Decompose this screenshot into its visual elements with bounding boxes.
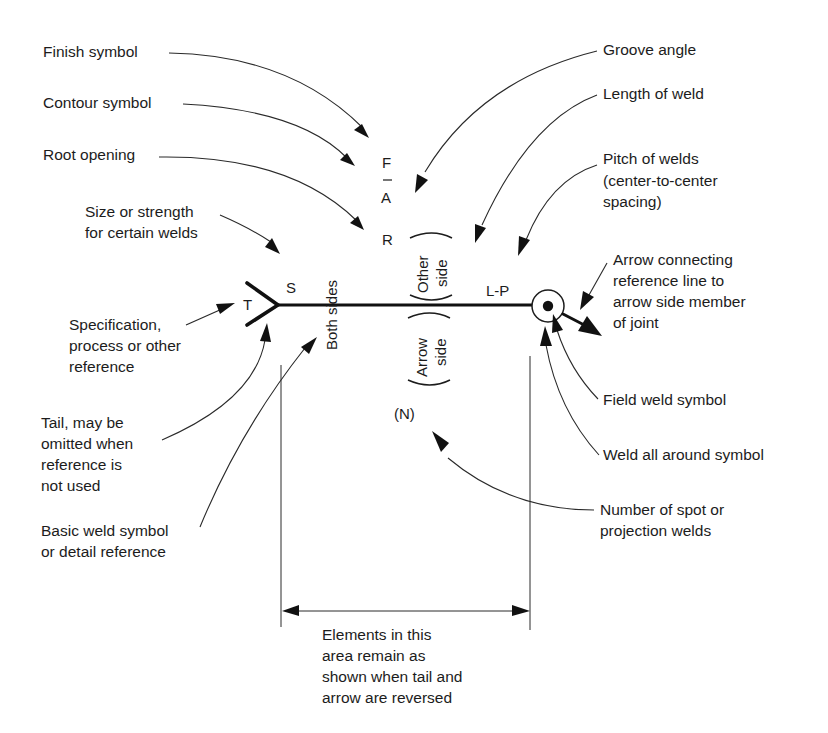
- arrowhead-specification: [216, 303, 235, 314]
- svg-text:spacing): spacing): [603, 193, 662, 210]
- welding-symbol-diagram: F A R S T L-P (N) Both sides Other side …: [0, 0, 828, 733]
- callout-elements-area: Elements in this area remain as shown wh…: [322, 626, 462, 706]
- symbol-number-n: (N): [394, 405, 415, 422]
- callout-size-strength: Size or strength for certain welds: [85, 203, 198, 241]
- svg-text:Finish symbol: Finish symbol: [43, 43, 138, 60]
- leader-weld-all-around: [546, 345, 599, 455]
- arrow-side-paren-bottom: [408, 380, 450, 385]
- svg-text:Contour symbol: Contour symbol: [43, 94, 152, 111]
- leader-arrow-connecting: [589, 263, 607, 295]
- dimension-arrow-left: [282, 605, 299, 616]
- svg-text:Size or strength: Size or strength: [85, 203, 194, 220]
- svg-text:Tail, may be: Tail, may be: [41, 414, 124, 431]
- svg-text:Root opening: Root opening: [43, 146, 135, 163]
- svg-text:process or other: process or other: [69, 337, 181, 354]
- callout-field-weld: Field weld symbol: [603, 391, 726, 408]
- other-side-line1: Other: [414, 255, 431, 293]
- arrow-side-line1: Arrow: [413, 338, 430, 377]
- symbol-finish-f: F: [382, 154, 391, 171]
- arrowhead-finish: [354, 124, 369, 138]
- callout-tail: Tail, may be omitted when reference is n…: [41, 414, 133, 494]
- leader-tail: [162, 340, 265, 440]
- other-side-paren-top: [410, 233, 452, 238]
- callout-pitch: Pitch of welds (center-to-center spacing…: [603, 150, 718, 210]
- svg-text:shown when tail and: shown when tail and: [322, 668, 462, 685]
- callout-contour-symbol: Contour symbol: [43, 94, 152, 111]
- other-side-paren-bottom: [410, 295, 452, 300]
- svg-text:Arrow connecting: Arrow connecting: [613, 251, 733, 268]
- leader-specification: [186, 309, 222, 325]
- svg-text:Weld all around symbol: Weld all around symbol: [603, 446, 764, 463]
- arrow-head: [578, 316, 602, 336]
- other-side-line2: side: [433, 259, 450, 287]
- arrowhead-contour: [340, 153, 355, 166]
- symbol-length-pitch: L-P: [486, 282, 509, 299]
- svg-text:Basic weld symbol: Basic weld symbol: [41, 522, 169, 539]
- svg-text:arrow are reversed: arrow are reversed: [322, 689, 452, 706]
- leader-spot-welds: [448, 458, 594, 510]
- arrow-side-group: Arrow side: [408, 313, 450, 385]
- leader-pitch: [526, 165, 597, 240]
- symbol-groove-angle-a: A: [381, 189, 391, 206]
- callout-root-opening: Root opening: [43, 146, 135, 163]
- arrow-side-paren-top: [408, 313, 450, 318]
- arrowhead-basic-weld: [301, 337, 317, 354]
- arrowhead-pitch: [518, 236, 530, 256]
- svg-text:area remain as: area remain as: [322, 647, 426, 664]
- svg-text:Number of spot or: Number of spot or: [600, 501, 724, 518]
- callout-groove-angle: Groove angle: [603, 41, 696, 58]
- symbol-root-opening-r: R: [382, 231, 393, 248]
- svg-text:reference: reference: [69, 358, 134, 375]
- arrowhead-length: [475, 224, 486, 243]
- leader-finish-symbol: [169, 53, 363, 128]
- svg-text:Field weld symbol: Field weld symbol: [603, 391, 726, 408]
- callout-basic-weld: Basic weld symbol or detail reference: [41, 522, 169, 560]
- svg-text:Elements in this: Elements in this: [322, 626, 432, 643]
- svg-text:reference line to: reference line to: [613, 272, 724, 289]
- callout-length-of-weld: Length of weld: [603, 85, 704, 102]
- other-side-group: Other side: [410, 233, 452, 300]
- symbol-spec-t: T: [243, 296, 252, 313]
- dimension-arrow-right: [512, 605, 530, 616]
- svg-text:for certain welds: for certain welds: [85, 224, 198, 241]
- leader-field-weld: [557, 330, 598, 399]
- svg-text:Length of weld: Length of weld: [603, 85, 704, 102]
- callout-finish-symbol: Finish symbol: [43, 43, 138, 60]
- arrowhead-groove: [415, 174, 428, 193]
- svg-text:of joint: of joint: [613, 314, 659, 331]
- both-sides-label: Both sides: [323, 280, 340, 350]
- leader-length-of-weld: [482, 95, 597, 225]
- arrow-side-line2: side: [432, 338, 449, 366]
- leader-size-strength: [220, 215, 271, 242]
- callout-weld-all-around: Weld all around symbol: [603, 446, 764, 463]
- arrowhead-size: [265, 238, 280, 254]
- arrowhead-arrow-connecting: [580, 291, 594, 310]
- arrowhead-weld-all-around: [540, 326, 552, 346]
- leader-contour-symbol: [183, 104, 347, 158]
- svg-text:Pitch of welds: Pitch of welds: [603, 150, 699, 167]
- svg-text:Groove angle: Groove angle: [603, 41, 696, 58]
- field-weld-dot: [543, 301, 553, 311]
- arrowhead-tail: [260, 323, 271, 342]
- callout-arrow-connecting: Arrow connecting reference line to arrow…: [613, 251, 746, 331]
- svg-text:omitted when: omitted when: [41, 435, 133, 452]
- svg-text:arrow side member: arrow side member: [613, 293, 746, 310]
- svg-text:or detail reference: or detail reference: [41, 543, 166, 560]
- svg-text:Specification,: Specification,: [69, 316, 161, 333]
- callout-specification: Specification, process or other referenc…: [69, 316, 181, 375]
- leader-basic-weld: [200, 348, 305, 527]
- svg-text:projection welds: projection welds: [600, 522, 711, 539]
- svg-text:not used: not used: [41, 477, 100, 494]
- arrowhead-root: [350, 216, 364, 230]
- arrowhead-spot-welds: [432, 431, 449, 452]
- callout-spot-welds: Number of spot or projection welds: [600, 501, 724, 539]
- leader-groove-angle: [425, 51, 597, 172]
- symbol-size-s: S: [286, 279, 296, 296]
- svg-text:reference is: reference is: [41, 456, 122, 473]
- svg-text:(center-to-center: (center-to-center: [603, 172, 718, 189]
